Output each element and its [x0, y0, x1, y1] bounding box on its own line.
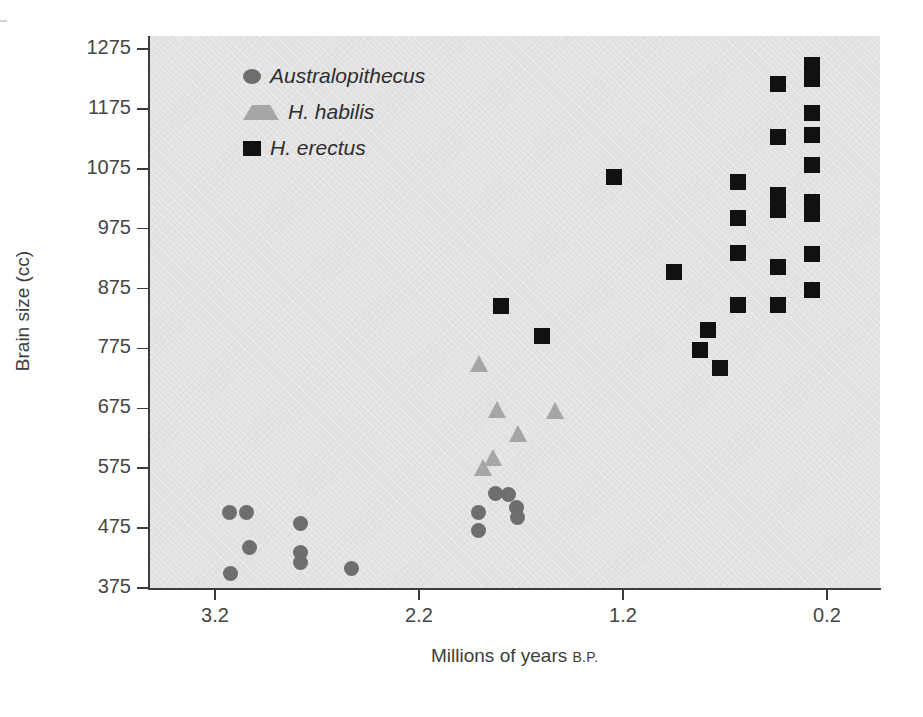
y-tick-label: 975	[98, 216, 131, 239]
y-tick-label: 775	[98, 335, 131, 358]
data-point-h-erectus	[730, 245, 746, 261]
y-tick-mark	[137, 288, 148, 290]
data-point-australopithecus	[471, 505, 486, 520]
data-point-h-erectus	[804, 282, 820, 298]
x-axis-title-suffix: B.P.	[573, 649, 598, 665]
data-point-australopithecus	[242, 540, 257, 555]
data-point-australopithecus	[344, 561, 359, 576]
legend-triangle-icon	[243, 105, 279, 120]
data-point-h-erectus	[700, 322, 716, 338]
legend-circle-icon	[243, 69, 261, 84]
data-point-h-erectus	[770, 129, 786, 145]
y-tick-mark	[137, 168, 148, 170]
data-point-australopithecus	[501, 487, 516, 502]
data-point-h-erectus	[730, 297, 746, 313]
data-point-h-erectus	[804, 127, 820, 143]
x-tick-label: 2.2	[405, 604, 433, 627]
x-tick-mark	[622, 589, 624, 600]
y-tick-label: 475	[98, 515, 131, 538]
data-point-h-erectus	[804, 105, 820, 121]
legend-label: Australopithecus	[270, 64, 425, 88]
data-point-h-habilis	[474, 459, 492, 476]
data-point-australopithecus	[293, 555, 308, 570]
y-tick-mark	[137, 527, 148, 529]
legend-item-circle[interactable]: Australopithecus	[243, 58, 425, 94]
y-tick-label: 575	[98, 455, 131, 478]
data-point-h-erectus	[804, 206, 820, 222]
data-point-h-erectus	[804, 157, 820, 173]
y-tick-label: 1275	[87, 36, 132, 59]
y-tick-mark	[137, 48, 148, 50]
data-point-h-habilis	[509, 425, 527, 442]
data-point-australopithecus	[293, 516, 308, 531]
scan-artifact-left-edge	[0, 20, 7, 22]
x-axis-line	[148, 588, 881, 590]
data-point-h-erectus	[666, 264, 682, 280]
data-point-h-erectus	[804, 246, 820, 262]
data-point-h-erectus	[712, 360, 728, 376]
x-tick-mark	[826, 589, 828, 600]
data-point-h-erectus	[534, 328, 550, 344]
x-tick-label: 0.2	[813, 604, 841, 627]
data-point-australopithecus	[510, 510, 525, 525]
data-point-h-erectus	[493, 298, 509, 314]
data-point-h-erectus	[770, 297, 786, 313]
data-point-h-erectus	[730, 210, 746, 226]
data-point-h-erectus	[804, 71, 820, 87]
legend-item-square[interactable]: H. erectus	[243, 130, 425, 166]
y-tick-label: 375	[98, 575, 131, 598]
y-tick-label: 1175	[88, 96, 131, 119]
x-axis-title: Millions of years B.P.	[149, 645, 880, 667]
legend: AustralopithecusH. habilisH. erectus	[243, 58, 425, 166]
data-point-h-erectus	[770, 187, 786, 203]
y-axis-title: Brain size (cc)	[12, 211, 34, 411]
y-tick-label: 1075	[87, 156, 132, 179]
legend-square-icon	[243, 141, 261, 156]
data-point-h-habilis	[546, 402, 564, 419]
y-tick-label: 675	[98, 395, 131, 418]
x-tick-mark	[214, 589, 216, 600]
legend-label: H. habilis	[288, 100, 374, 124]
y-axis-line	[148, 36, 150, 589]
y-tick-mark	[137, 467, 148, 469]
y-tick-mark	[137, 587, 148, 589]
data-point-h-erectus	[606, 169, 622, 185]
y-tick-mark	[137, 348, 148, 350]
data-point-h-erectus	[770, 202, 786, 218]
data-point-h-erectus	[730, 174, 746, 190]
x-tick-mark	[418, 589, 420, 600]
data-point-h-erectus	[770, 259, 786, 275]
legend-label: H. erectus	[270, 136, 366, 160]
y-tick-mark	[137, 408, 148, 410]
data-point-australopithecus	[223, 566, 238, 581]
data-point-h-habilis	[488, 401, 506, 418]
data-point-australopithecus	[239, 505, 254, 520]
scan-artifact-corner	[838, 0, 923, 36]
data-point-australopithecus	[222, 505, 237, 520]
x-axis-title-main: Millions of years	[431, 645, 573, 666]
data-point-australopithecus	[471, 523, 486, 538]
chart-figure: 375475575675775875975107511751275 3.22.2…	[0, 0, 923, 717]
y-tick-mark	[137, 228, 148, 230]
x-tick-label: 3.2	[201, 604, 229, 627]
y-tick-mark	[137, 108, 148, 110]
data-point-h-erectus	[770, 76, 786, 92]
legend-item-triangle[interactable]: H. habilis	[243, 94, 425, 130]
data-point-h-erectus	[692, 342, 708, 358]
x-tick-label: 1.2	[609, 604, 637, 627]
y-tick-label: 875	[98, 276, 131, 299]
data-point-h-habilis	[470, 355, 488, 372]
